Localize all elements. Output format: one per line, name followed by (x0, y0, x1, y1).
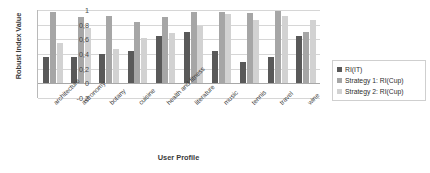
bar-group-bars (95, 10, 123, 83)
legend-label: Strategy 2: RI(Cup) (345, 88, 404, 95)
bar (212, 51, 218, 83)
legend: RI(IT)Strategy 1: RI(Cup)Strategy 2: RI(… (332, 60, 426, 101)
bar-group (236, 10, 264, 98)
bar (240, 62, 246, 83)
bar (141, 38, 147, 83)
bar (296, 36, 302, 83)
legend-item[interactable]: Strategy 1: RI(Cup) (337, 75, 422, 86)
bar-chart: Robust Index Value 10,80,60,40,20-0,2 ar… (0, 0, 430, 173)
bar (219, 12, 225, 83)
legend-swatch-icon (337, 67, 342, 72)
bar (85, 28, 91, 84)
legend-swatch-icon (337, 78, 342, 83)
bar (50, 12, 56, 83)
bar (282, 16, 288, 83)
bar (310, 20, 316, 83)
bar-group-bars (236, 10, 264, 83)
bar-group (39, 10, 67, 98)
bar (113, 49, 119, 83)
bar-group (151, 10, 179, 98)
x-axis-ticks: architectureastronomybotanycuisinehealth… (37, 99, 320, 151)
legend-item[interactable]: RI(IT) (337, 64, 422, 75)
bar (78, 17, 84, 83)
bar-group-bars (39, 10, 67, 83)
bar (253, 20, 259, 84)
bar (169, 33, 175, 83)
bar (156, 36, 162, 83)
bar (225, 14, 231, 83)
bar-group-bars (151, 10, 179, 83)
bar-group-bars (67, 10, 95, 83)
legend-swatch-icon (337, 89, 342, 94)
bar (128, 51, 134, 83)
bar-group-bars (264, 10, 292, 83)
bar (275, 11, 281, 84)
legend-item[interactable]: Strategy 2: RI(Cup) (337, 86, 422, 97)
legend-label: Strategy 1: RI(Cup) (345, 77, 404, 84)
bar (162, 17, 168, 84)
bar (247, 13, 253, 83)
bar (106, 16, 112, 83)
bar-group-bars (123, 10, 151, 83)
y-axis-title-wrap: Robust Index Value (0, 30, 14, 90)
bar (268, 57, 274, 83)
bar (134, 22, 140, 83)
bar-group (123, 10, 151, 98)
y-axis-title: Robust Index Value (14, 0, 26, 96)
bar (57, 43, 63, 83)
bar (303, 32, 309, 83)
bar-group-bars (292, 10, 320, 83)
bar-group-bars (208, 10, 236, 83)
plot-area (37, 10, 320, 98)
bar (43, 57, 49, 83)
x-axis-title: User Profile (37, 153, 320, 162)
bar-group (264, 10, 292, 98)
legend-label: RI(IT) (345, 66, 362, 73)
bar-group (292, 10, 320, 98)
